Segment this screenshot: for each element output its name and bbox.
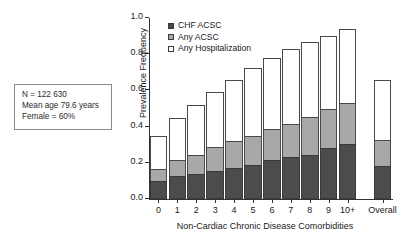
x-tick-label-0: 0 bbox=[156, 205, 161, 215]
bar-segment-chf-acsc bbox=[244, 165, 262, 199]
legend-swatch-icon bbox=[168, 23, 174, 29]
x-tick-label-2: 2 bbox=[194, 205, 199, 215]
x-tick-label-1: 1 bbox=[175, 205, 180, 215]
prevalence-frequency-figure: N = 122 630 Mean age 79.6 years Female =… bbox=[0, 0, 409, 242]
legend-label: CHF ACSC bbox=[178, 20, 221, 32]
x-tick-label-Overall: Overall bbox=[368, 205, 397, 215]
bar-group: 6 bbox=[263, 18, 281, 199]
bar-segment-chf-acsc bbox=[206, 171, 224, 199]
stats-line-female-percent: Female = 60% bbox=[22, 112, 105, 123]
x-tick-label-10+: 10+ bbox=[340, 205, 355, 215]
x-tick-mark bbox=[215, 199, 216, 203]
x-tick-mark bbox=[234, 199, 235, 203]
x-tick-mark bbox=[383, 199, 384, 203]
x-tick-label-8: 8 bbox=[307, 205, 312, 215]
x-tick-label-4: 4 bbox=[232, 205, 237, 215]
x-tick-mark bbox=[329, 199, 330, 203]
y-axis-title: Prevalence Frequency bbox=[138, 0, 148, 163]
bar-segment-chf-acsc bbox=[169, 176, 187, 199]
legend-item-chf-acsc: CHF ACSC bbox=[168, 20, 251, 32]
bar-segment-chf-acsc bbox=[225, 168, 243, 199]
x-tick-mark bbox=[272, 199, 273, 203]
x-tick-mark bbox=[158, 199, 159, 203]
bar-segment-chf-acsc bbox=[301, 155, 319, 199]
legend-label: Any Hospitalization bbox=[178, 43, 251, 55]
bar-group: Overall bbox=[374, 18, 392, 199]
bar-segment-chf-acsc bbox=[339, 144, 357, 199]
legend-label: Any ACSC bbox=[178, 32, 219, 44]
x-tick-mark bbox=[291, 199, 292, 203]
bar-group: 7 bbox=[282, 18, 300, 199]
legend-item-any-hospitalization: Any Hospitalization bbox=[168, 43, 251, 55]
x-tick-mark bbox=[177, 199, 178, 203]
study-stats-box: N = 122 630 Mean age 79.6 years Female =… bbox=[14, 84, 112, 130]
y-tick-mark bbox=[145, 198, 149, 199]
x-axis-title: Non-Cardiac Chronic Disease Comorbiditie… bbox=[130, 221, 400, 231]
bar-group: 8 bbox=[301, 18, 319, 199]
bar-segment-chf-acsc bbox=[374, 166, 392, 199]
y-tick-label: 0.0 bbox=[130, 192, 143, 202]
stats-line-sample-size: N = 122 630 bbox=[22, 90, 105, 101]
bar-group: 0 bbox=[150, 18, 168, 199]
x-tick-label-6: 6 bbox=[269, 205, 274, 215]
bar-segment-chf-acsc bbox=[187, 174, 205, 199]
x-tick-mark bbox=[310, 199, 311, 203]
stats-line-mean-age: Mean age 79.6 years bbox=[22, 101, 105, 112]
legend-item-any-acsc: Any ACSC bbox=[168, 32, 251, 44]
bar-group: 9 bbox=[320, 18, 338, 199]
chart-legend: CHF ACSCAny ACSCAny Hospitalization bbox=[168, 20, 251, 55]
bar-segment-chf-acsc bbox=[320, 148, 338, 199]
x-tick-label-5: 5 bbox=[250, 205, 255, 215]
legend-swatch-icon bbox=[168, 46, 174, 52]
x-tick-mark bbox=[253, 199, 254, 203]
x-tick-label-9: 9 bbox=[326, 205, 331, 215]
x-tick-mark bbox=[196, 199, 197, 203]
x-tick-label-7: 7 bbox=[288, 205, 293, 215]
bar-segment-chf-acsc bbox=[263, 160, 281, 199]
bar-segment-chf-acsc bbox=[282, 157, 300, 199]
x-tick-mark bbox=[348, 199, 349, 203]
bar-group: 10+ bbox=[339, 18, 357, 199]
x-tick-label-3: 3 bbox=[213, 205, 218, 215]
bar-segment-chf-acsc bbox=[150, 181, 168, 199]
legend-swatch-icon bbox=[168, 34, 174, 40]
